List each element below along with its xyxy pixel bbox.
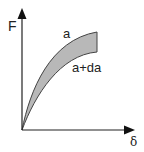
y-axis-label: F — [8, 18, 17, 34]
curve-a-label: a — [63, 26, 71, 41]
x-axis-label: δ — [130, 135, 137, 149]
x-axis-arrowhead-icon — [124, 126, 135, 135]
y-axis-arrowhead-icon — [18, 8, 27, 19]
curve-a-plus-da-label: a+da — [72, 60, 102, 75]
shaded-energy-band — [22, 32, 97, 130]
force-displacement-diagram: F a a+da δ — [0, 0, 144, 152]
